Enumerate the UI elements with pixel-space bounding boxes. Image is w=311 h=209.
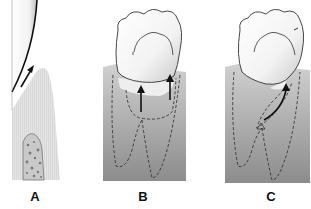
panel-c [210, 0, 311, 185]
panel-a-illustration [0, 0, 100, 185]
panel-a [0, 0, 100, 185]
panel-label-c: C [261, 189, 281, 204]
panel-c-illustration [210, 0, 311, 185]
panel-label-b: B [133, 189, 153, 204]
panel-b [100, 0, 210, 185]
panel-label-a: A [25, 189, 45, 204]
panel-b-illustration [100, 0, 210, 185]
